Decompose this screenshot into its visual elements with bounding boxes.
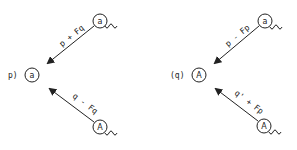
left-bottom-source-node: A [93, 120, 117, 135]
right-top-source-label: a [263, 17, 268, 26]
left-bottom-arrow-label: q - Fq [71, 91, 100, 116]
left-top-source-label: a [98, 17, 103, 26]
left-bottom-source-label: A [97, 123, 103, 132]
feynman-diagram-canvas: p) a a p + Fq A q - Fq (q) A a [0, 0, 297, 150]
right-target-prefix: (q) [170, 71, 184, 80]
left-target-prefix: p) [8, 71, 18, 80]
left-top-source-node: a [93, 14, 117, 28]
right-panel: (q) A a p - Fp A q' + Fp [170, 14, 282, 134]
right-top-source-node: a [258, 14, 282, 29]
right-bottom-source-label: A [261, 122, 267, 131]
left-target-node: a [25, 68, 39, 82]
left-top-wavy-line [105, 24, 117, 28]
left-bottom-wavy-line [105, 131, 117, 135]
right-bottom-source-node: A [257, 119, 281, 134]
right-top-wavy-line [270, 25, 282, 29]
right-bottom-wavy-line [269, 130, 281, 134]
right-bottom-arrow-label: q' + Fp [233, 88, 265, 116]
right-target-label: A [196, 71, 202, 80]
left-target-label: a [30, 71, 35, 80]
left-panel: p) a a p + Fq A q - Fq [8, 14, 117, 135]
right-target-node: A [192, 68, 206, 82]
